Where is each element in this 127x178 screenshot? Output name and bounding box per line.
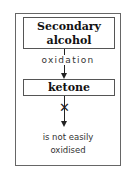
ketone-box: ketone [23, 79, 115, 96]
cross-icon: ✕ [59, 101, 70, 114]
note-line1: is not easily [15, 131, 121, 144]
arrow-head-2-icon [61, 121, 67, 127]
start-box-line2: alcohol [24, 34, 114, 48]
oxidation-label: oxidation [15, 55, 121, 65]
secondary-alcohol-box: Secondary alcohol [23, 17, 115, 49]
start-box-line1: Secondary [24, 20, 114, 34]
not-oxidised-note: is not easily oxidised [15, 131, 121, 157]
ketone-label: ketone [48, 81, 90, 94]
oxidation-text: oxidation [41, 55, 94, 65]
note-line2: oxidised [15, 144, 121, 157]
